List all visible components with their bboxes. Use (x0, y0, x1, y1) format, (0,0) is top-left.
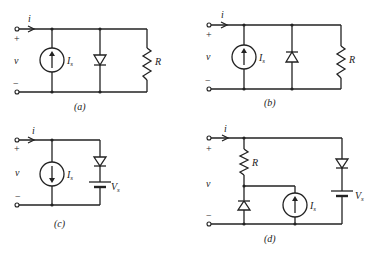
node-dot (290, 23, 293, 26)
source-label: Is (66, 169, 73, 182)
node-dot (242, 23, 245, 26)
current-label: i (221, 9, 224, 20)
current-label: i (224, 123, 227, 134)
diode-icon (94, 157, 106, 166)
node-dot (98, 27, 101, 30)
negative-terminal (207, 87, 211, 91)
diode-icon (286, 52, 298, 62)
resistor-icon (240, 149, 248, 175)
node-dot (50, 203, 53, 206)
positive-terminal (207, 136, 211, 140)
circuit-c: i + v − Is Vs (c) (14, 125, 120, 230)
positive-terminal (15, 27, 19, 31)
caption: (b) (264, 97, 276, 109)
node-dot (98, 90, 101, 93)
node-dot (242, 222, 245, 225)
node-dot (242, 87, 245, 90)
node-dot (293, 222, 296, 225)
plus-sign: + (14, 33, 20, 44)
node-dot (290, 87, 293, 90)
current-source-icon (232, 45, 256, 69)
caption: (a) (74, 101, 86, 113)
negative-terminal (15, 203, 19, 207)
node-dot (242, 136, 245, 139)
resistor-label: R (154, 56, 161, 67)
source-label: Is (258, 52, 265, 65)
source-label: Is (66, 55, 73, 68)
resistor-label: R (251, 157, 258, 168)
battery-label: Vs (111, 181, 120, 194)
voltage-label: v (14, 55, 19, 66)
voltage-label: v (15, 167, 20, 178)
resistor-label: R (348, 54, 355, 65)
minus-sign: − (206, 210, 212, 221)
current-source-icon (40, 48, 64, 72)
node-dot (50, 138, 53, 141)
plus-sign: + (206, 143, 212, 154)
circuit-b: i + v − Is R (b) (205, 9, 355, 109)
diode-icon (336, 159, 348, 168)
node-dot (50, 90, 53, 93)
minus-sign: − (15, 191, 21, 202)
voltage-label: v (206, 178, 211, 189)
negative-terminal (15, 90, 19, 94)
resistor-icon (337, 46, 345, 78)
diode-icon (94, 55, 106, 65)
minus-sign: − (13, 78, 19, 89)
plus-sign: + (206, 29, 212, 40)
positive-terminal (15, 138, 19, 142)
battery-icon (89, 182, 111, 187)
caption: (d) (264, 233, 276, 245)
caption: (c) (54, 218, 66, 230)
current-label: i (32, 125, 35, 136)
source-label: Is (309, 200, 316, 213)
negative-terminal (207, 222, 211, 226)
current-label: i (28, 13, 31, 24)
voltage-label: v (206, 51, 211, 62)
circuit-d: i + v − R Is Vs (d) (206, 123, 364, 245)
current-source-icon (40, 162, 64, 186)
positive-terminal (207, 23, 211, 27)
circuit-a: i + v − Is R (a) (13, 13, 161, 113)
battery-icon (331, 191, 353, 196)
resistor-icon (143, 48, 151, 80)
diode-icon (238, 201, 250, 210)
plus-sign: + (14, 143, 20, 154)
current-source-icon (283, 193, 307, 217)
node-dot (50, 27, 53, 30)
battery-label: Vs (355, 190, 364, 203)
minus-sign: − (205, 75, 211, 86)
